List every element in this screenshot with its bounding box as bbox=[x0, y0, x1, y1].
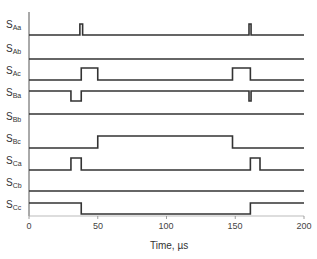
signal-label-SAc: SAc bbox=[6, 66, 21, 77]
signal-label-SCc: SCc bbox=[6, 200, 21, 211]
signal-label-SBc: SBc bbox=[6, 134, 21, 145]
axes bbox=[29, 12, 304, 219]
signal-label-SCa: SCa bbox=[6, 156, 22, 167]
signal-label-SBa: SBa bbox=[6, 88, 21, 99]
waveform-SAa bbox=[29, 24, 304, 35]
waveform-SAc bbox=[29, 68, 304, 80]
waveform-SBc bbox=[29, 136, 304, 148]
signal-label-SAb: SAb bbox=[6, 44, 21, 55]
waveform-SCc bbox=[29, 203, 304, 214]
waveforms bbox=[29, 24, 304, 214]
x-tick-100: 100 bbox=[158, 221, 173, 231]
x-tick-50: 50 bbox=[93, 221, 103, 231]
x-tick-150: 150 bbox=[227, 221, 242, 231]
signal-label-SCb: SCb bbox=[6, 178, 22, 189]
x-tick-0: 0 bbox=[26, 221, 31, 231]
x-axis-title: Time, µs bbox=[150, 240, 188, 251]
signal-label-SAa: SAa bbox=[6, 20, 21, 31]
waveform-SBa bbox=[29, 91, 304, 101]
waveform-SCa bbox=[29, 158, 304, 170]
signal-label-SBb: SBb bbox=[6, 112, 21, 123]
x-tick-200: 200 bbox=[296, 221, 311, 231]
